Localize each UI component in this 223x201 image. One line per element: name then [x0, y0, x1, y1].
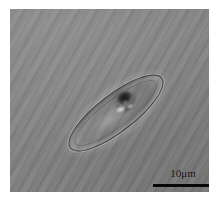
micrograph-figure: 10μm: [0, 0, 223, 201]
scale-bar: 10μm: [153, 167, 209, 187]
scale-bar-label: 10μm: [153, 167, 209, 179]
image-vignette: [10, 9, 209, 192]
scale-bar-line: [153, 184, 209, 187]
micrograph-image: 10μm: [10, 9, 209, 192]
